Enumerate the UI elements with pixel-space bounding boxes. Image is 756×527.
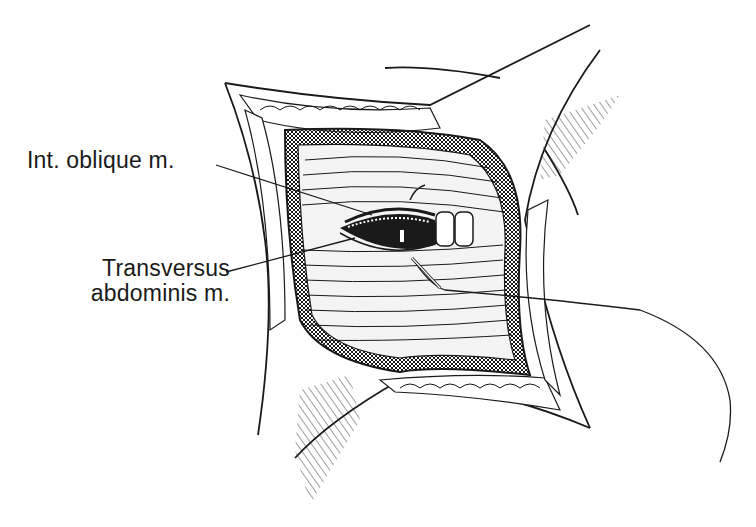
label-int-oblique: Int. oblique m. — [27, 148, 174, 173]
label-transversus-line1: Transversus — [91, 256, 230, 281]
fat-layer-top — [240, 95, 440, 133]
fat-layer-bottom — [380, 375, 560, 410]
muscle-surface — [298, 144, 515, 360]
label-transversus-abdominis: Transversus abdominis m. — [91, 256, 230, 306]
label-transversus-line2: abdominis m. — [91, 281, 230, 306]
